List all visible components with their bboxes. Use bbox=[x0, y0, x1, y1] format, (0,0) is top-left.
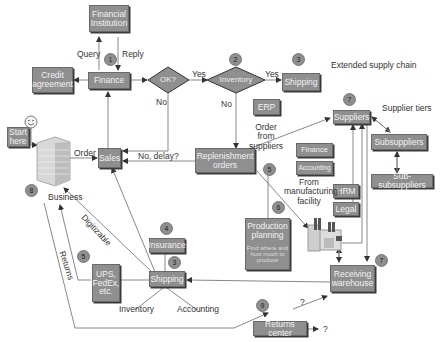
step-badge-7a: 7 bbox=[343, 93, 356, 106]
returns-center-node: Returns center bbox=[253, 321, 307, 336]
subsuppliers-node: Subsuppliers bbox=[371, 134, 427, 150]
sub-subsuppliers-node: Sub-subsuppliers bbox=[371, 174, 433, 188]
yes-label-2: Yes bbox=[265, 70, 279, 79]
reply-label: Reply bbox=[122, 50, 144, 59]
shipping-bottom-node: Shipping bbox=[149, 271, 185, 287]
yes-label-1: Yes bbox=[192, 70, 206, 79]
erp-node: ERP bbox=[253, 99, 280, 115]
credit-agreement-node: Credit agreement bbox=[32, 67, 73, 93]
query-label: Query bbox=[77, 50, 100, 59]
step-badge-3b: 3 bbox=[168, 256, 181, 269]
no-delay-label: No, delay? bbox=[138, 152, 179, 161]
step-badge-4: 4 bbox=[160, 222, 173, 235]
factory-icon bbox=[308, 218, 342, 251]
inventory-bottom-label: Inventory bbox=[119, 305, 154, 314]
no-label-1: No bbox=[156, 98, 167, 107]
step-badge-1: 1 bbox=[104, 53, 117, 66]
order-from-suppliers-label: Order from suppliers bbox=[248, 123, 284, 151]
sales-node: Sales bbox=[98, 148, 121, 168]
accounting-bottom-label: Accounting bbox=[177, 305, 219, 314]
question-label-2: ? bbox=[323, 325, 328, 334]
finance-node: Finance bbox=[88, 72, 130, 89]
legal-node: Legal bbox=[333, 202, 359, 216]
step-badge-5a: 5 bbox=[263, 163, 276, 176]
from-manufacturing-label: From manufacturing facility bbox=[284, 178, 334, 206]
step-badge-7b: 7 bbox=[375, 254, 388, 267]
order-label: Order bbox=[74, 149, 96, 158]
accounting-mfg-node: Accounting bbox=[296, 161, 333, 175]
supplier-tiers-label: Supplier tiers bbox=[382, 104, 432, 113]
step-badge-5b: 5 bbox=[77, 250, 90, 263]
financial-institution-node: Financial Institution bbox=[89, 5, 129, 32]
insurance-node: Insurance bbox=[149, 238, 185, 253]
title-label: Extended supply chain bbox=[331, 61, 417, 70]
step-badge-9: 9 bbox=[256, 299, 269, 312]
step-badge-6: 6 bbox=[272, 201, 285, 214]
no-label-2: No bbox=[221, 100, 232, 109]
supply-chain-diagram: Financial Institution Finance Credit agr… bbox=[0, 0, 442, 342]
ups-fedex-node: UPS, FedEx, etc. bbox=[92, 264, 120, 302]
inventory-decision-label: Inventory bbox=[212, 75, 260, 84]
receiving-warehouse-node: Receiving warehouse bbox=[330, 265, 375, 292]
business-building-icon bbox=[37, 137, 70, 186]
production-planning-node: Production planning Find where and how m… bbox=[245, 218, 290, 270]
step-badge-3a: 3 bbox=[292, 53, 305, 66]
business-label: Business bbox=[48, 193, 83, 202]
production-planning-title: Production planning bbox=[246, 222, 289, 240]
finance-mfg-node: Finance bbox=[296, 143, 333, 157]
step-badge-8: 8 bbox=[25, 184, 38, 197]
step-badge-2: 2 bbox=[229, 53, 242, 66]
shipping-top-node: Shipping bbox=[282, 73, 320, 91]
replenishment-orders-node: Replenishment orders bbox=[195, 148, 255, 173]
start-here-node: Start here bbox=[7, 127, 29, 147]
suppliers-node: Suppliers bbox=[333, 110, 370, 124]
question-label-1: ? bbox=[300, 298, 305, 307]
ok-decision-label: OK? bbox=[153, 75, 183, 84]
production-planning-subtitle: Find where and how much to produce bbox=[246, 245, 289, 264]
